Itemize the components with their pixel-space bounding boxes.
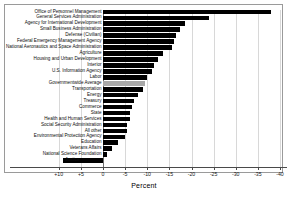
- x-tick: [169, 167, 170, 170]
- bar: [103, 57, 158, 62]
- bar: [103, 81, 145, 86]
- bar: [103, 129, 127, 134]
- x-tick: [147, 167, 148, 170]
- bar: [103, 39, 174, 44]
- x-tick-label: -35: [246, 171, 270, 178]
- bar: [103, 140, 118, 145]
- x-tick-label: -5: [113, 171, 137, 178]
- x-tick-label: -40: [268, 171, 288, 178]
- x-tick-label: -15: [157, 171, 181, 178]
- bar: [103, 123, 127, 128]
- bar: [103, 93, 138, 98]
- x-axis-title: Percent: [0, 182, 288, 189]
- x-tick-label: -25: [202, 171, 226, 178]
- x-tick-label: -30: [224, 171, 248, 178]
- bar: [103, 51, 163, 56]
- x-tick-label: -20: [180, 171, 204, 178]
- bar: [103, 105, 132, 110]
- bar: [103, 146, 112, 151]
- bar: [103, 152, 107, 157]
- x-tick: [258, 167, 259, 170]
- bar: [103, 27, 180, 32]
- x-tick-label: +10: [47, 171, 71, 178]
- x-tick: [81, 167, 82, 170]
- chart-figure: +10+50-5-10-15-20-25-30-35-40 Office of …: [0, 0, 288, 198]
- x-tick-label: 0: [91, 171, 115, 178]
- x-tick: [192, 167, 193, 170]
- x-tick: [236, 167, 237, 170]
- bar: [103, 75, 147, 80]
- bar: [103, 16, 209, 21]
- bar: [103, 45, 172, 50]
- bar: [103, 87, 143, 92]
- x-tick: [280, 167, 281, 170]
- x-tick-label: +5: [69, 171, 93, 178]
- x-tick: [125, 167, 126, 170]
- x-tick-label: -10: [135, 171, 159, 178]
- x-tick: [59, 167, 60, 170]
- bar: [103, 111, 130, 116]
- bar: [103, 10, 271, 15]
- bar: [103, 33, 176, 38]
- x-tick: [103, 167, 104, 170]
- bar: [103, 99, 134, 104]
- x-axis-line: [10, 167, 287, 168]
- bar: [103, 63, 154, 68]
- bar: [103, 69, 152, 74]
- bar: [103, 117, 130, 122]
- bar: [103, 21, 185, 26]
- bar: [103, 135, 125, 140]
- bar-label: Justice: [65, 157, 79, 163]
- bar-rows: Office of Personnel ManagementGeneral Se…: [0, 0, 288, 166]
- x-tick: [214, 167, 215, 170]
- bar-row: Justice: [0, 158, 288, 164]
